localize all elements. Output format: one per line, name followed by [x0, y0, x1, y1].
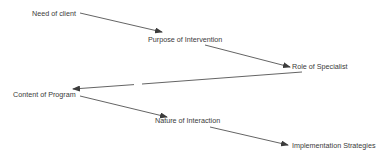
node-need-of-client: Need of client — [32, 10, 76, 17]
diagram-canvas: Need of client Purpose of Intervention R… — [0, 0, 390, 167]
edge-purpose-to-role — [205, 45, 290, 67]
node-role-of-specialist: Role of Specialist — [292, 63, 348, 70]
node-content-of-program: Content of Program — [13, 91, 76, 98]
node-nature-of-interaction: Nature of Interaction — [155, 117, 220, 124]
edge-nature-to-implementation — [210, 127, 288, 145]
node-implementation-strategies: Implementation Strategies — [292, 142, 376, 149]
edge-need-to-purpose — [80, 13, 162, 32]
edge-content-to-nature — [80, 96, 167, 117]
node-purpose-of-intervention: Purpose of Intervention — [148, 36, 222, 43]
edge-role-to-content-segment-a — [142, 72, 302, 84]
edge-role-to-content-segment-b — [73, 85, 134, 89]
